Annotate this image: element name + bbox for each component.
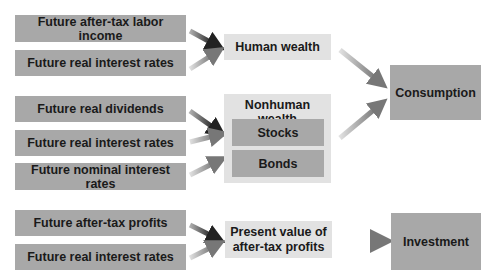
source-label: Future real dividends bbox=[37, 102, 163, 116]
source-after-tax-labor-income: Future after-tax labor income bbox=[15, 15, 186, 42]
source-label: Future real interest rates bbox=[27, 136, 174, 150]
source-real-interest-rates-2: Future real interest rates bbox=[15, 130, 186, 156]
present-value-label-line2: after-tax profits bbox=[233, 240, 325, 255]
arrow-labor-to-human bbox=[190, 31, 212, 43]
arrow-nominal-to-bonds bbox=[190, 163, 214, 175]
arrow-nonhuman-to-consumption bbox=[340, 108, 376, 138]
present-value-box: Present value of after-tax profits bbox=[225, 221, 332, 258]
source-label: Future after-tax profits bbox=[33, 216, 167, 230]
source-label: Future after-tax labor income bbox=[15, 15, 186, 43]
source-real-interest-rates-3: Future real interest rates bbox=[15, 244, 186, 270]
source-label: Future real interest rates bbox=[27, 250, 174, 264]
human-wealth-label: Human wealth bbox=[235, 40, 320, 55]
source-nominal-interest-rates: Future nominal interest rates bbox=[15, 163, 186, 190]
arrow-rates-to-human bbox=[190, 55, 212, 69]
consumption-box: Consumption bbox=[390, 65, 481, 120]
source-real-dividends: Future real dividends bbox=[15, 96, 186, 122]
source-label: Future nominal interest rates bbox=[15, 163, 186, 191]
source-label: Future real interest rates bbox=[27, 56, 174, 70]
arrow-dividends-to-stocks bbox=[190, 111, 214, 128]
bonds-label: Bonds bbox=[259, 157, 298, 171]
source-after-tax-profits: Future after-tax profits bbox=[15, 210, 186, 236]
human-wealth-box: Human wealth bbox=[224, 34, 331, 60]
present-value-label-line1: Present value of bbox=[230, 225, 327, 240]
investment-label: Investment bbox=[403, 235, 469, 249]
consumption-label: Consumption bbox=[395, 86, 476, 100]
arrow-human-to-consumption bbox=[340, 50, 376, 79]
source-real-interest-rates-1: Future real interest rates bbox=[15, 50, 186, 76]
arrow-profits-to-pv bbox=[190, 225, 212, 236]
investment-box: Investment bbox=[391, 213, 481, 270]
arrow-rates-to-pv bbox=[190, 247, 212, 258]
arrow-rates-to-stocks bbox=[190, 136, 214, 142]
nonhuman-wealth-box: Nonhuman wealth Stocks Bonds bbox=[224, 94, 331, 183]
bonds-box: Bonds bbox=[232, 150, 324, 177]
stocks-box: Stocks bbox=[232, 119, 324, 146]
stocks-label: Stocks bbox=[258, 126, 299, 140]
